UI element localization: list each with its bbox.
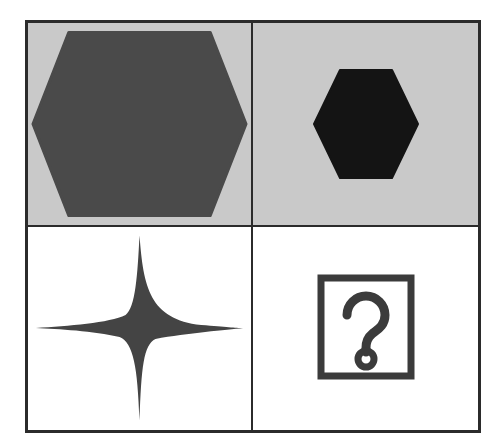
hexagon-small-icon bbox=[254, 23, 478, 225]
four-pointed-star-icon bbox=[28, 227, 251, 429]
hexagon-large-icon bbox=[28, 23, 251, 225]
matrix-cell-bottom-left[interactable] bbox=[28, 227, 253, 431]
question-mark-box-icon bbox=[254, 227, 478, 429]
matrix-cell-top-right[interactable] bbox=[253, 23, 478, 227]
matrix-cell-top-left[interactable] bbox=[28, 23, 253, 227]
analogy-matrix bbox=[25, 20, 481, 433]
puzzle-canvas bbox=[0, 0, 497, 446]
matrix-cell-bottom-right-answer[interactable] bbox=[253, 227, 478, 431]
